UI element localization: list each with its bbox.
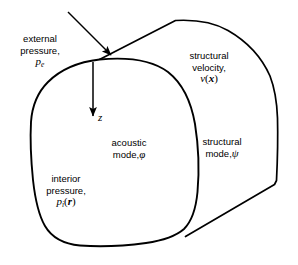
- external-pressure-subscript: e: [41, 60, 44, 69]
- interior-pressure-line2: pressure,: [46, 185, 86, 196]
- structural-velocity-line1: structural: [189, 50, 228, 61]
- diagram-canvas: external pressure, pe structural velocit…: [0, 0, 298, 265]
- label-z-axis: z: [98, 112, 110, 124]
- label-acoustic-mode: acoustic mode,φ: [98, 137, 160, 160]
- label-interior-pressure: interior pressure, pi(r): [32, 173, 100, 211]
- label-external-pressure: external pressure, pe: [6, 33, 74, 71]
- structural-mode-symbol: ψ: [232, 147, 239, 159]
- structural-mode-line2: mode,: [205, 148, 231, 159]
- structural-mode-line1: structural: [202, 136, 241, 147]
- external-pressure-line1: external: [23, 33, 57, 44]
- label-structural-velocity: structural velocity, v(x): [170, 50, 248, 85]
- external-pressure-arrow: [68, 12, 111, 55]
- acoustic-mode-symbol: φ: [139, 148, 145, 160]
- structural-velocity-close-paren: ): [214, 72, 218, 84]
- acoustic-mode-line1: acoustic: [112, 137, 147, 148]
- interior-pressure-line1: interior: [51, 173, 80, 184]
- acoustic-mode-line2: mode,: [113, 149, 139, 160]
- interior-pressure-close-paren: ): [72, 195, 76, 207]
- structural-velocity-line2: velocity,: [192, 62, 226, 73]
- label-structural-mode: structural mode,ψ: [186, 136, 258, 159]
- external-pressure-line2: pressure,: [20, 45, 60, 56]
- z-axis-symbol: z: [98, 111, 102, 123]
